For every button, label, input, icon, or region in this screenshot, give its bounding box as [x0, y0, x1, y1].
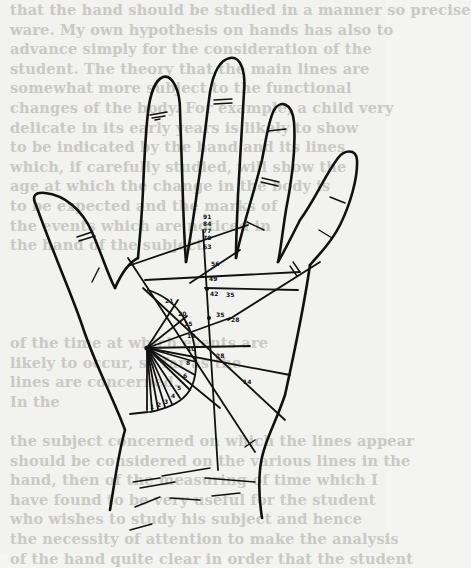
svg-text:28: 28 [231, 316, 239, 323]
svg-text:20: 20 [178, 310, 186, 317]
svg-text:15: 15 [184, 320, 192, 327]
palm-edge-right [259, 265, 310, 518]
svg-text:70: 70 [203, 234, 211, 241]
svg-text:42: 42 [210, 290, 218, 297]
svg-text:4: 4 [171, 392, 175, 399]
palm-lines [128, 225, 320, 470]
svg-text:21: 21 [165, 297, 173, 304]
little-finger-outline [278, 152, 357, 266]
svg-text:91: 91 [203, 213, 211, 220]
svg-text:84: 84 [203, 220, 211, 227]
svg-text:35: 35 [216, 311, 224, 318]
svg-text:77: 77 [203, 227, 211, 234]
right-labels: 35 28 14 [226, 291, 251, 385]
svg-text:14: 14 [243, 378, 251, 385]
svg-text:28: 28 [216, 352, 224, 359]
svg-text:8: 8 [186, 359, 190, 366]
svg-text:1: 1 [150, 403, 154, 410]
middle-finger-outline [186, 58, 244, 262]
svg-text:49: 49 [209, 275, 217, 282]
svg-text:3: 3 [164, 398, 168, 405]
svg-text:5: 5 [177, 384, 181, 391]
index-finger-outline [138, 77, 186, 262]
svg-text:2: 2 [157, 401, 161, 408]
svg-text:63: 63 [203, 243, 211, 250]
svg-text:35: 35 [226, 291, 234, 298]
svg-text:56: 56 [211, 260, 219, 267]
svg-text:10: 10 [187, 345, 195, 352]
thumb-web [115, 258, 138, 288]
fan-origin-point [144, 345, 149, 350]
svg-text:6: 6 [183, 372, 187, 379]
svg-text:12: 12 [187, 332, 195, 339]
